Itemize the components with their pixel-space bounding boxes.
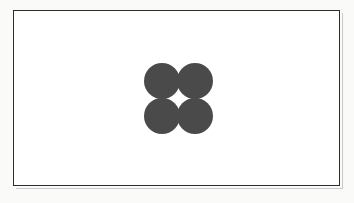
circle-top-right: [177, 63, 213, 99]
figure-canvas: [14, 11, 339, 185]
figure-stage: [0, 0, 354, 203]
circle-bottom-right: [177, 98, 213, 134]
figure-frame: [13, 10, 340, 186]
circle-top-left: [144, 63, 180, 99]
circle-bottom-left: [144, 98, 180, 134]
circle-cluster: [144, 63, 213, 134]
